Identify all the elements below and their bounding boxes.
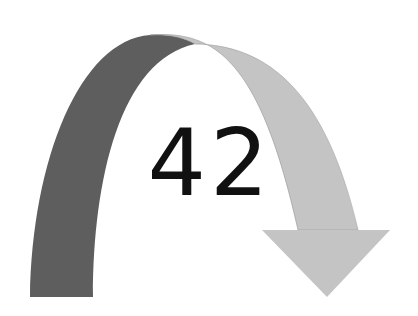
number-label: 42 — [140, 118, 280, 210]
arrowhead — [262, 230, 390, 297]
